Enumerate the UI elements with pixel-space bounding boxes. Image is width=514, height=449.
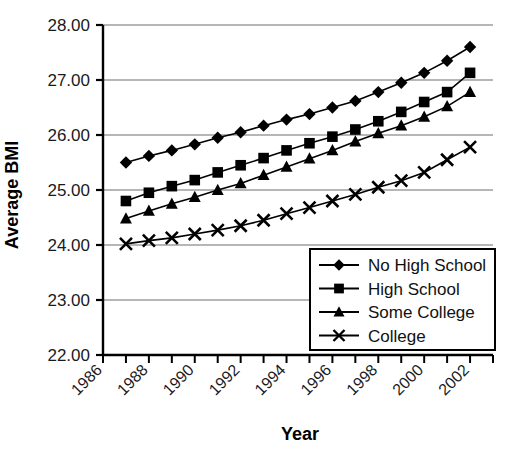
data-point-square xyxy=(334,284,344,294)
data-point-square xyxy=(442,87,453,98)
data-point-square xyxy=(235,160,246,171)
y-tick-label: 24.00 xyxy=(47,236,90,255)
data-point-square xyxy=(144,187,155,198)
y-tick-label: 22.00 xyxy=(47,346,90,365)
y-tick-label: 28.00 xyxy=(47,16,90,35)
y-tick-label: 25.00 xyxy=(47,181,90,200)
bmi-line-chart: 22.0023.0024.0025.0026.0027.0028.00 1986… xyxy=(0,0,514,449)
legend-item-label: High School xyxy=(368,280,460,299)
y-axis-title: Average BMI xyxy=(2,141,22,249)
data-point-square xyxy=(419,97,430,108)
y-tick-label: 23.00 xyxy=(47,291,90,310)
data-point-square xyxy=(373,116,384,127)
data-point-square xyxy=(281,145,292,156)
data-point-square xyxy=(396,107,407,118)
chart-canvas: 22.0023.0024.0025.0026.0027.0028.00 1986… xyxy=(0,0,514,449)
data-point-square xyxy=(327,131,338,142)
legend-item-label: Some College xyxy=(368,303,475,322)
legend-item-label: No High School xyxy=(368,256,486,275)
legend-item-label: College xyxy=(368,327,426,346)
chart-legend: No High SchoolHigh SchoolSome CollegeCol… xyxy=(310,249,495,350)
y-tick-label: 27.00 xyxy=(47,71,90,90)
data-point-square xyxy=(189,175,200,186)
data-point-square xyxy=(167,181,178,192)
data-point-square xyxy=(121,196,132,207)
data-point-square xyxy=(212,167,223,178)
data-point-square xyxy=(350,124,361,135)
data-point-square xyxy=(258,153,269,164)
y-tick-label: 26.00 xyxy=(47,126,90,145)
data-point-square xyxy=(304,138,315,149)
data-point-square xyxy=(465,68,476,79)
x-axis-title: Year xyxy=(281,424,319,444)
